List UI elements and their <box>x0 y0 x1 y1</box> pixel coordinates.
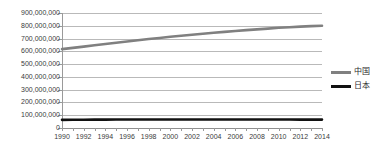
x-axis-tick <box>138 128 139 131</box>
legend-label: 日本 <box>354 82 370 90</box>
x-axis-tick <box>257 128 258 131</box>
x-axis-tick <box>127 128 128 131</box>
gridline <box>62 26 322 27</box>
y-axis-line <box>62 13 63 128</box>
x-axis-tick <box>149 128 150 131</box>
x-axis-tick <box>116 128 117 131</box>
y-axis-tick-label: 0 <box>56 124 60 131</box>
x-axis-tick <box>214 128 215 131</box>
legend: 中国日本 <box>331 68 370 90</box>
x-axis-tick-label: 2010 <box>271 133 287 141</box>
x-axis-tick <box>105 128 106 131</box>
x-axis-tick <box>279 128 280 131</box>
legend-label: 中国 <box>354 68 370 76</box>
x-axis-tick <box>246 128 247 131</box>
x-axis-tick <box>235 128 236 131</box>
x-axis-tick <box>290 128 291 131</box>
series-line <box>62 26 322 49</box>
x-axis-tick-label: 2008 <box>249 133 265 141</box>
legend-item[interactable]: 中国 <box>331 68 370 76</box>
x-axis-tick <box>95 128 96 131</box>
x-axis-tick-label: 2004 <box>206 133 222 141</box>
y-axis-tick-label: 200,000,000 <box>21 98 60 105</box>
x-axis-tick <box>300 128 301 131</box>
legend-swatch-icon <box>331 85 351 88</box>
legend-item[interactable]: 日本 <box>331 82 370 90</box>
x-axis-tick-label: 1996 <box>119 133 135 141</box>
x-axis-tick-label: 2002 <box>184 133 200 141</box>
x-axis-tick-label: 2000 <box>163 133 179 141</box>
x-axis-tick <box>62 128 63 131</box>
gridline <box>62 102 322 103</box>
y-axis-tick-label: 500,000,000 <box>21 60 60 67</box>
gridline <box>62 51 322 52</box>
x-axis-tick <box>181 128 182 131</box>
x-axis-tick-label: 1992 <box>76 133 92 141</box>
x-axis-tick-label: 1998 <box>141 133 157 141</box>
x-axis-tick-label: 2014 <box>314 133 330 141</box>
gridline <box>62 13 322 14</box>
gridline <box>62 90 322 91</box>
x-axis-tick <box>268 128 269 131</box>
gridline <box>62 39 322 40</box>
x-axis-tick-label: 1990 <box>54 133 70 141</box>
x-axis-tick <box>73 128 74 131</box>
gridline <box>62 64 322 65</box>
y-axis-tick-label: 600,000,000 <box>21 47 60 54</box>
x-axis-tick-label: 1994 <box>98 133 114 141</box>
x-axis-tick <box>322 128 323 131</box>
y-axis-tick-label: 900,000,000 <box>21 9 60 16</box>
gridline <box>62 115 322 116</box>
y-axis-tick-label: 800,000,000 <box>21 22 60 29</box>
legend-swatch-icon <box>331 71 351 74</box>
y-axis-tick-label: 300,000,000 <box>21 86 60 93</box>
x-axis-tick-label: 2006 <box>228 133 244 141</box>
x-axis-tick <box>225 128 226 131</box>
x-axis-tick <box>203 128 204 131</box>
y-axis-tick-label: 700,000,000 <box>21 35 60 42</box>
x-axis-tick <box>170 128 171 131</box>
y-axis-tick-label: 100,000,000 <box>21 111 60 118</box>
x-axis-tick <box>192 128 193 131</box>
x-axis-tick-label: 2012 <box>293 133 309 141</box>
x-axis-tick <box>84 128 85 131</box>
chart-container: 0100,000,000200,000,000300,000,000400,00… <box>0 0 386 159</box>
y-axis-tick-label: 400,000,000 <box>21 73 60 80</box>
x-axis-tick <box>311 128 312 131</box>
gridline <box>62 77 322 78</box>
x-axis-tick <box>160 128 161 131</box>
